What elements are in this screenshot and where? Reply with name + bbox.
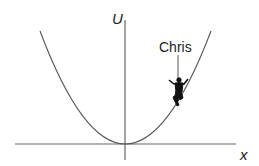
character-label: Chris	[159, 39, 192, 55]
skateboarder-icon	[169, 78, 188, 106]
y-axis-label: U	[112, 10, 123, 27]
x-axis-label: x	[240, 146, 248, 163]
diagram-canvas	[0, 0, 259, 166]
